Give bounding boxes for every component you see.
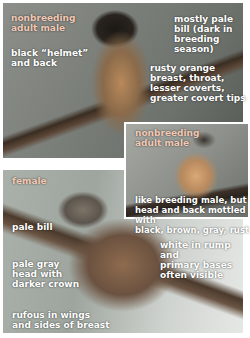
female-section-label: female	[12, 176, 47, 186]
gray-head-annotation: pale gray head with darker crown	[12, 259, 79, 289]
inset-section-label: nonbreeding adult male	[135, 128, 199, 148]
mottled-annotation: like breeding male, but head and back mo…	[135, 195, 250, 235]
breast-annotation: rusty orange breast, throat, lesser cove…	[150, 63, 246, 103]
rufous-annotation: rufous in wings and sides of breast	[12, 310, 109, 330]
rump-annotation: white in rump and primary bases often vi…	[160, 240, 250, 280]
helmet-annotation: black “helmet” and back	[11, 48, 88, 68]
pale-bill-annotation: pale bill	[12, 222, 53, 232]
top-section-label: nonbreeding adult male	[11, 13, 75, 33]
bill-annotation: mostly pale bill (dark in breeding seaso…	[174, 14, 233, 54]
